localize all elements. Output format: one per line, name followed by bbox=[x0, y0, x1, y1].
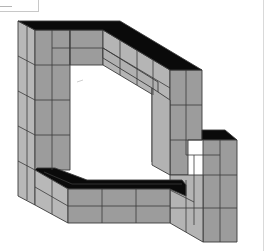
right-column-side-face bbox=[152, 88, 170, 175]
block-loop-figure bbox=[0, 0, 267, 251]
right-step-top-face bbox=[202, 130, 237, 140]
stray-mark bbox=[77, 80, 83, 82]
left-column-side-face bbox=[18, 21, 35, 205]
top-bar-front-face bbox=[70, 30, 103, 65]
